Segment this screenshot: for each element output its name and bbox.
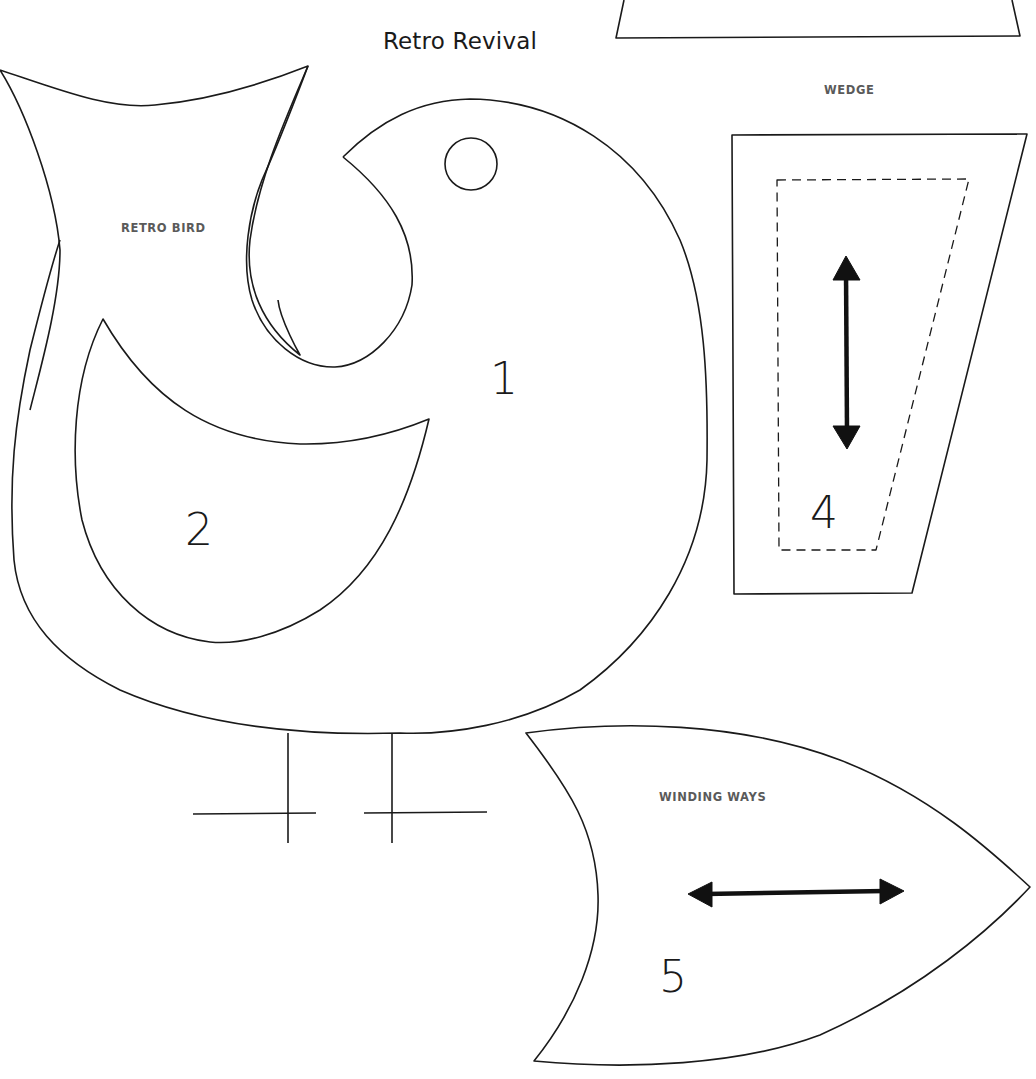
bird-tail-shape — [0, 66, 308, 410]
bird-wing-shape — [75, 319, 429, 643]
piece-number-5: 5 — [659, 955, 687, 999]
bird-foot-right — [364, 812, 487, 813]
winding-ways-grain-arrow — [688, 879, 904, 907]
winding-ways-shape — [526, 726, 1030, 1065]
page-title: Retro Revival — [300, 28, 620, 54]
wedge-seam-line — [777, 179, 969, 550]
template-page: Retro Revival RETRO BIRD 1 2 WEDGE 4 WIN… — [0, 0, 1036, 1079]
wedge-outer-shape — [732, 134, 1027, 594]
template-drawing — [0, 0, 1036, 1079]
piece-number-1: 1 — [490, 357, 518, 401]
wedge-grain-arrow — [833, 256, 860, 449]
partial-template-shape — [616, 0, 1020, 38]
bird-foot-left — [193, 813, 316, 814]
bird-eye-shape — [445, 138, 497, 190]
piece-number-4: 4 — [810, 491, 838, 535]
bird-neck-curve — [247, 66, 413, 367]
bird-body-shape — [12, 99, 707, 733]
winding-ways-label: WINDING WAYS — [659, 790, 766, 804]
piece-number-2: 2 — [185, 508, 213, 552]
retro-bird-label: RETRO BIRD — [121, 221, 206, 235]
wedge-label: WEDGE — [824, 83, 874, 97]
